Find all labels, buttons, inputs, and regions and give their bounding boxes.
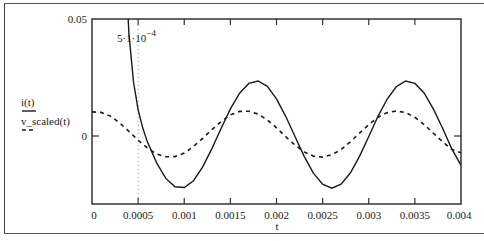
x-tick-label: 0.003 [356, 209, 381, 221]
legend-label-i: i(t) [21, 96, 34, 108]
x-tick-label: 0.0005 [123, 209, 154, 221]
y-tick-label: 0 [82, 130, 88, 142]
x-tick-label: 0 [91, 209, 97, 221]
time-marker: 5·1·10−4 [117, 21, 156, 204]
x-tick-label: 0.0025 [308, 209, 339, 221]
y-tick-label: 0.05 [68, 13, 88, 25]
x-axis-ticks: 00.00050.0010.00150.0020.00250.0030.0035… [91, 19, 472, 221]
x-tick-label: 0.001 [172, 209, 197, 221]
plot-area-frame [92, 19, 461, 204]
x-tick-label: 0.004 [447, 209, 472, 221]
series-v-scaled-line [92, 111, 461, 157]
x-tick-label: 0.0015 [215, 209, 246, 221]
marker-label: 5·1·10−4 [117, 28, 156, 44]
x-tick-label: 0.0035 [400, 209, 431, 221]
x-axis-label: t [275, 220, 278, 232]
legend-label-v-scaled: v_scaled(t) [21, 115, 70, 127]
